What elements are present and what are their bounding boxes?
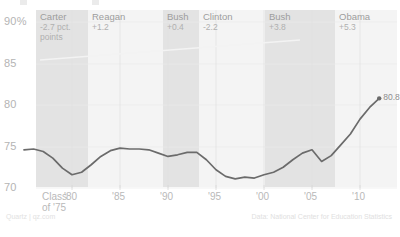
x-tick-2000: '00 [256, 191, 269, 202]
endpoint-marker [377, 96, 381, 100]
endpoint-value-label: 80.8 [383, 92, 400, 102]
annotation-bush41: Bush +0.4 [167, 12, 189, 33]
credit-source-right: Data: National Center for Education Stat… [252, 213, 392, 220]
x-tick-origin-line2: of '75 [42, 202, 66, 213]
annotation-carter-delta-line2: points [40, 33, 71, 43]
annotation-obama: Obama +5.3 [339, 12, 370, 33]
x-tick-1980: '80 [64, 191, 77, 202]
band-reagan [88, 10, 163, 187]
x-tick-1995: '95 [208, 191, 221, 202]
x-tick-1990: '90 [160, 191, 173, 202]
annotation-reagan-delta: +1.2 [92, 23, 125, 33]
x-tick-2005: '05 [304, 191, 317, 202]
band-bush41 [163, 10, 199, 187]
annotation-reagan: Reagan +1.2 [92, 12, 125, 33]
annotation-carter: Carter -2.7 pct. points [40, 12, 71, 42]
president-bands [36, 10, 397, 187]
annotation-clinton-delta: -2.2 [203, 23, 233, 33]
annotation-clinton: Clinton -2.2 [203, 12, 233, 33]
annotation-carter-name: Carter [40, 12, 71, 22]
y-tick-70: 70 [4, 181, 38, 193]
annotation-obama-name: Obama [339, 12, 370, 22]
annotation-clinton-name: Clinton [203, 12, 233, 22]
annotation-bush43-name: Bush [269, 12, 291, 22]
annotation-bush43: Bush +3.8 [269, 12, 291, 33]
x-tick-1985: '85 [112, 191, 125, 202]
y-tick-85: 85 [4, 57, 38, 69]
annotation-bush43-delta: +3.8 [269, 23, 291, 33]
band-clinton [199, 10, 265, 187]
x-tick-2010: '10 [352, 191, 365, 202]
scan-artifact-left [20, 0, 27, 5]
credit-source-left: Quartz | qz.com [6, 213, 55, 220]
y-tick-90: 90% [4, 15, 38, 27]
annotation-reagan-name: Reagan [92, 12, 125, 22]
scan-artifact-mid [92, 0, 99, 5]
annotation-bush41-name: Bush [167, 12, 189, 22]
y-tick-80: 80 [4, 98, 38, 110]
annotation-bush41-delta: +0.4 [167, 23, 189, 33]
y-tick-75: 75 [4, 140, 38, 152]
annotation-obama-delta: +5.3 [339, 23, 370, 33]
